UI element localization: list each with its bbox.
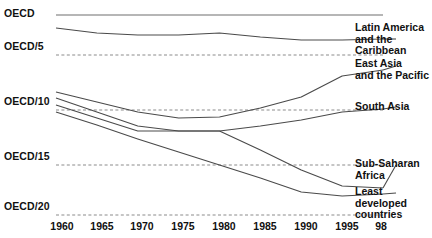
xtick-label-1985: 1985 bbox=[253, 220, 276, 232]
series-label-east-asia: East Asia and the Pacific bbox=[355, 58, 429, 81]
series-label-least-developed: Least developed countries bbox=[355, 186, 432, 221]
ytick-label-oecd-10: OECD/10 bbox=[4, 96, 50, 107]
chart-container: OECD OECD/5 OECD/10 OECD/15 OECD/20 1960… bbox=[0, 0, 432, 238]
xtick-label-1970: 1970 bbox=[130, 220, 153, 232]
ytick-label-oecd: OECD bbox=[4, 8, 35, 19]
series-lines bbox=[56, 15, 383, 196]
series-line-latin-america bbox=[56, 28, 383, 40]
series-label-sub-saharan-africa: Sub-Saharan Africa bbox=[355, 158, 420, 181]
series-label-south-asia: South Asia bbox=[355, 101, 409, 113]
ytick-label-oecd-5: OECD/5 bbox=[4, 41, 44, 52]
xtick-label-1995: 1995 bbox=[335, 220, 358, 232]
xtick-label-1990: 1990 bbox=[294, 220, 317, 232]
xtick-label-1975: 1975 bbox=[171, 220, 194, 232]
series-label-latin-america: Latin America and the Caribbean bbox=[355, 22, 432, 57]
xtick-label-1980: 1980 bbox=[212, 220, 235, 232]
ytick-label-oecd-20: OECD/20 bbox=[4, 201, 50, 212]
series-line-east-asia bbox=[56, 70, 383, 118]
xtick-label-1965: 1965 bbox=[90, 220, 113, 232]
series-line-south-asia bbox=[56, 98, 383, 131]
xtick-label-1960: 1960 bbox=[50, 220, 73, 232]
ytick-label-oecd-15: OECD/15 bbox=[4, 151, 50, 162]
gridlines bbox=[56, 55, 383, 215]
xtick-label-98: 98 bbox=[375, 220, 387, 232]
